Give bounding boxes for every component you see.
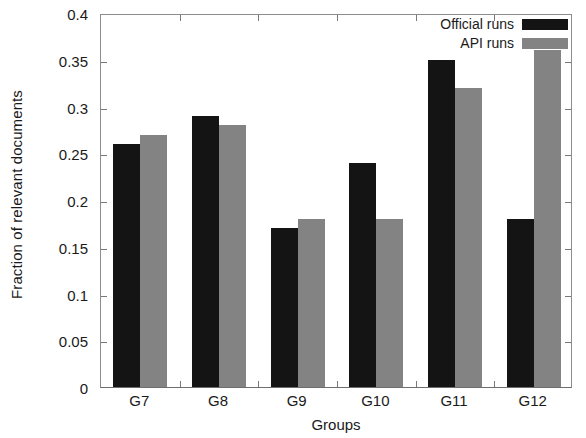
bar (349, 163, 376, 387)
y-axis-tick-mark (565, 342, 571, 343)
bar (113, 144, 140, 387)
x-axis-tick-label: G9 (287, 392, 307, 409)
x-axis-tick-mark (494, 381, 495, 387)
x-axis-tick-label: G7 (129, 392, 149, 409)
bar (219, 125, 246, 387)
bar-chart-figure: Fraction of relevant documents 00.050.10… (0, 0, 586, 438)
x-axis-tick-label: G10 (361, 392, 389, 409)
y-axis-tick-label: 0.05 (59, 333, 88, 350)
x-axis-tick-mark (180, 381, 181, 387)
y-axis-tick-mark (565, 296, 571, 297)
x-axis-tick-mark (337, 15, 338, 21)
y-axis-tick-mark (101, 296, 107, 297)
legend-item: Official runs (440, 16, 568, 32)
y-axis-tick-mark (101, 109, 107, 110)
y-axis-tick-label: 0.2 (67, 193, 88, 210)
plot-area (100, 14, 572, 388)
bar (428, 60, 455, 387)
y-axis-title-text: Fraction of relevant documents (8, 90, 25, 299)
y-axis-tick-label: 0.4 (67, 6, 88, 23)
y-axis-tick-mark (565, 62, 571, 63)
bar (455, 88, 482, 387)
y-axis-tick-labels: 00.050.10.150.20.250.30.350.4 (28, 0, 94, 438)
bar (507, 219, 534, 387)
y-axis-tick-label: 0.3 (67, 99, 88, 116)
x-axis-tick-mark (416, 381, 417, 387)
x-axis-tick-label: G12 (518, 392, 546, 409)
chart-legend: Official runsAPI runs (440, 16, 568, 51)
bar (192, 116, 219, 387)
y-axis-tick-label: 0.35 (59, 52, 88, 69)
y-axis-tick-label: 0.1 (67, 286, 88, 303)
y-axis-tick-label: 0.25 (59, 146, 88, 163)
y-axis-tick-mark (565, 109, 571, 110)
legend-color-swatch (522, 19, 568, 30)
y-axis-tick-label: 0.15 (59, 239, 88, 256)
bar (140, 135, 167, 387)
y-axis-tick-mark (101, 202, 107, 203)
x-axis-tick-mark (337, 381, 338, 387)
legend-color-swatch (522, 38, 568, 49)
legend-label: API runs (460, 35, 514, 51)
x-axis-tick-mark (416, 15, 417, 21)
y-axis-tick-mark (101, 342, 107, 343)
x-axis-tick-mark (258, 381, 259, 387)
bar (376, 219, 403, 387)
x-axis-tick-mark (258, 15, 259, 21)
bar (298, 219, 325, 387)
bar (271, 228, 298, 387)
x-axis-tick-label: G11 (440, 392, 467, 409)
x-axis-title: Groups (100, 416, 572, 433)
bar (534, 50, 561, 387)
y-axis-title: Fraction of relevant documents (2, 0, 30, 388)
legend-label: Official runs (440, 16, 514, 32)
y-axis-tick-mark (565, 249, 571, 250)
x-axis-tick-mark (180, 15, 181, 21)
x-axis-tick-label: G8 (208, 392, 228, 409)
bar-group-container (101, 15, 571, 387)
x-axis-tick-labels: G7G8G9G10G11G12 (100, 392, 572, 414)
y-axis-tick-mark (101, 62, 107, 63)
y-axis-tick-mark (565, 202, 571, 203)
y-axis-tick-label: 0 (80, 380, 88, 397)
legend-item: API runs (460, 35, 568, 51)
y-axis-tick-mark (101, 155, 107, 156)
y-axis-tick-mark (101, 249, 107, 250)
y-axis-tick-mark (565, 155, 571, 156)
